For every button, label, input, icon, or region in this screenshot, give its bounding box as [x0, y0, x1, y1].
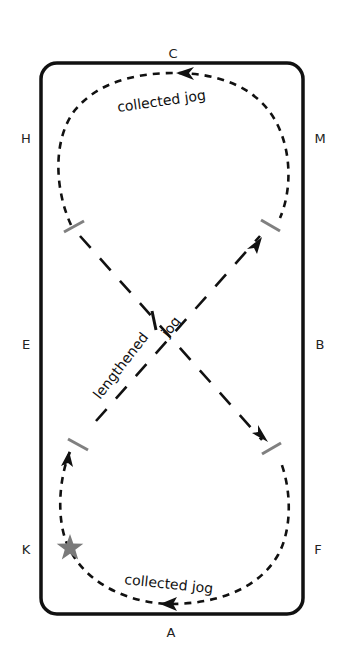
jog-diagonal-label: jog — [157, 313, 183, 340]
bottom-collected-jog-label: collected jog — [124, 571, 214, 596]
diagram-canvas: C H M E B K F A lengthened jog collected… — [0, 0, 342, 661]
arena-letter-h: H — [21, 131, 31, 146]
transition-marker-top-right — [261, 220, 280, 231]
arrow-diagonal-up-icon — [247, 237, 262, 254]
transition-marker-bottom-right — [262, 443, 281, 454]
transition-marker-bottom-left — [68, 439, 88, 450]
arena-letter-a: A — [167, 625, 176, 640]
arena-letter-e: E — [22, 337, 30, 352]
arena-letter-c: C — [168, 46, 177, 61]
arena-letter-m: M — [314, 131, 325, 146]
arena-letter-b: B — [316, 337, 325, 352]
arrow-top-circle-icon — [176, 67, 194, 80]
arena-letter-k: K — [22, 542, 31, 557]
gait-divider-mark — [152, 311, 156, 330]
top-collected-jog-label: collected jog — [116, 87, 206, 115]
arena-boundary — [41, 63, 303, 614]
arena-letter-f: F — [314, 542, 321, 557]
star-icon — [57, 534, 84, 559]
transition-marker-top-left — [64, 221, 84, 232]
lengthened-label: lengthened — [90, 329, 152, 402]
arrow-bottom-left-up-icon — [61, 451, 73, 467]
dressage-diagram: C H M E B K F A lengthened jog collected… — [0, 0, 342, 661]
